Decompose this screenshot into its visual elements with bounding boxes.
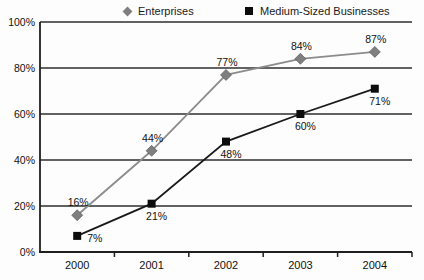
diamond-swatch-icon	[123, 6, 133, 16]
y-axis-tick-label: 40%	[14, 154, 35, 166]
data-point-label: 87%	[365, 33, 386, 45]
chart: 0%20%40%60%80%100%2000200120022003200416…	[0, 0, 424, 280]
y-axis-tick-label: 100%	[8, 16, 35, 28]
data-point-label: 77%	[216, 56, 237, 68]
data-point-label: 7%	[87, 232, 102, 244]
x-axis-tick-label: 2002	[214, 259, 238, 271]
data-point-label: 16%	[68, 196, 89, 208]
y-axis-tick-label: 80%	[14, 62, 35, 74]
legend-label-enterprises: Enterprises	[138, 5, 194, 17]
data-point-marker-diamond	[295, 53, 306, 64]
y-axis-tick-label: 60%	[14, 108, 35, 120]
y-axis-tick-label: 20%	[14, 200, 35, 212]
data-point-label: 44%	[142, 132, 163, 144]
data-point-label: 21%	[146, 210, 167, 222]
data-point-label: 48%	[220, 148, 241, 160]
x-axis-tick-label: 2001	[139, 259, 163, 271]
line-chart-figure: 0%20%40%60%80%100%2000200120022003200416…	[0, 0, 424, 280]
data-point-marker-square	[371, 85, 379, 93]
data-point-label: 71%	[369, 95, 390, 107]
x-axis-tick-label: 2003	[288, 259, 312, 271]
data-point-label: 84%	[291, 40, 312, 52]
legend-item-medium-sized-businesses: Medium-Sized Businesses	[245, 5, 390, 17]
legend-label-medium-sized-businesses: Medium-Sized Businesses	[260, 5, 390, 17]
legend-item-enterprises: Enterprises	[124, 5, 194, 17]
data-point-marker-diamond	[369, 46, 380, 57]
series-line-1	[77, 89, 375, 236]
x-axis-tick-label: 2004	[363, 259, 387, 271]
data-point-marker-square	[73, 232, 81, 240]
data-point-marker-square	[148, 200, 156, 208]
x-axis-tick-label: 2000	[65, 259, 89, 271]
data-point-marker-square	[296, 110, 304, 118]
y-axis-tick-label: 0%	[20, 246, 35, 258]
data-point-marker-square	[222, 138, 230, 146]
square-swatch-icon	[245, 7, 253, 15]
data-point-label: 60%	[295, 120, 316, 132]
